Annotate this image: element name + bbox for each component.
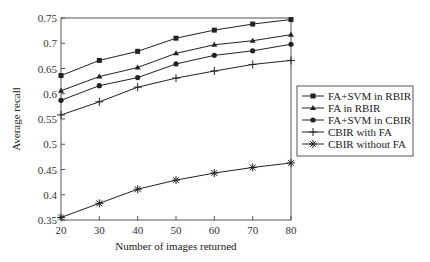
line-chart: 0.350.40.450.50.550.60.650.70.75 2030405… — [0, 0, 430, 262]
x-tick-label: 50 — [171, 224, 183, 236]
triangle-marker-icon — [288, 32, 294, 37]
legend-label: CBIR with FA — [328, 126, 392, 138]
square-marker-icon — [311, 94, 316, 99]
circle-marker-icon — [250, 48, 255, 53]
series-cbir-without-fa — [57, 159, 295, 222]
square-marker-icon — [97, 58, 102, 63]
square-marker-icon — [289, 17, 294, 22]
star-marker-icon — [210, 169, 218, 177]
plot-frame — [61, 18, 291, 220]
y-tick-label: 0.65 — [38, 63, 58, 75]
y-tick-label: 0.4 — [43, 189, 57, 201]
x-axis-ticks: 20304050607080 — [56, 216, 298, 236]
x-tick-label: 70 — [247, 224, 259, 236]
square-marker-icon — [212, 28, 217, 33]
circle-marker-icon — [288, 42, 293, 47]
star-marker-icon — [57, 213, 65, 221]
star-marker-icon — [172, 176, 180, 184]
plus-marker-icon — [134, 83, 142, 91]
y-tick-label: 0.75 — [38, 12, 58, 24]
legend-label: FA+SVM in CBIR — [328, 114, 412, 126]
star-marker-icon — [287, 159, 295, 167]
legend-label: FA in RBIR — [328, 102, 381, 114]
square-marker-icon — [135, 49, 140, 54]
star-marker-icon — [95, 199, 103, 207]
data-series — [57, 17, 295, 221]
axes — [61, 18, 291, 220]
y-axis-title: Average recall — [10, 87, 22, 151]
x-tick-label: 20 — [56, 224, 68, 236]
y-tick-label: 0.7 — [43, 37, 57, 49]
series-line — [61, 60, 291, 115]
series-line — [61, 20, 291, 76]
plus-marker-icon — [287, 56, 295, 64]
star-marker-icon — [134, 185, 142, 193]
circle-marker-icon — [310, 117, 315, 122]
legend-label: FA+SVM in RBIR — [328, 90, 412, 102]
plus-marker-icon — [249, 60, 257, 68]
circle-marker-icon — [173, 61, 178, 66]
circle-marker-icon — [135, 75, 140, 80]
circle-marker-icon — [58, 98, 63, 103]
star-marker-icon — [309, 140, 317, 148]
square-marker-icon — [250, 22, 255, 27]
plus-marker-icon — [172, 74, 180, 82]
x-axis-title: Number of images returned — [115, 240, 237, 252]
legend: FA+SVM in RBIRFA in RBIRFA+SVM in CBIRCB… — [297, 86, 413, 156]
x-tick-label: 30 — [94, 224, 106, 236]
plus-marker-icon — [210, 67, 218, 75]
y-tick-label: 0.6 — [43, 88, 57, 100]
circle-marker-icon — [212, 53, 217, 58]
x-tick-label: 40 — [132, 224, 144, 236]
plus-marker-icon — [95, 98, 103, 106]
x-tick-label: 80 — [286, 224, 298, 236]
legend-label: CBIR without FA — [328, 138, 406, 150]
square-marker-icon — [174, 36, 179, 41]
y-tick-label: 0.5 — [43, 138, 57, 150]
square-marker-icon — [59, 73, 64, 78]
y-tick-label: 0.55 — [38, 113, 58, 125]
series-fa-svm-in-rbir — [59, 17, 294, 78]
star-marker-icon — [249, 163, 257, 171]
circle-marker-icon — [97, 83, 102, 88]
series-line — [61, 163, 291, 218]
plus-marker-icon — [57, 111, 65, 119]
y-tick-label: 0.45 — [38, 164, 58, 176]
x-tick-label: 60 — [209, 224, 221, 236]
